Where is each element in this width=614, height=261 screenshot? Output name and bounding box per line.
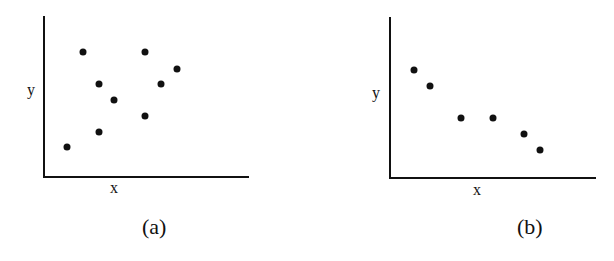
- data-point: [537, 147, 544, 154]
- x-axis-label: x: [110, 180, 118, 196]
- data-point: [142, 49, 149, 56]
- y-axis: [43, 16, 45, 178]
- scatter-panel-a: y x (a): [0, 0, 307, 261]
- data-point: [521, 131, 528, 138]
- y-axis-label: y: [372, 85, 380, 101]
- data-point: [64, 144, 71, 151]
- data-point: [458, 115, 465, 122]
- y-axis-label: y: [27, 82, 35, 98]
- panel-caption: (b): [517, 216, 543, 238]
- data-point: [490, 115, 497, 122]
- data-point: [174, 66, 181, 73]
- y-axis: [389, 17, 391, 179]
- data-point: [96, 129, 103, 136]
- panel-caption: (a): [142, 216, 166, 238]
- data-point: [111, 97, 118, 104]
- data-point: [411, 67, 418, 74]
- data-point: [80, 49, 87, 56]
- data-point: [158, 81, 165, 88]
- data-point: [427, 83, 434, 90]
- data-point: [142, 113, 149, 120]
- scatter-panel-b: y x (b): [307, 0, 614, 261]
- data-point: [96, 81, 103, 88]
- x-axis-label: x: [473, 182, 481, 198]
- x-axis: [389, 177, 596, 179]
- x-axis: [43, 176, 249, 178]
